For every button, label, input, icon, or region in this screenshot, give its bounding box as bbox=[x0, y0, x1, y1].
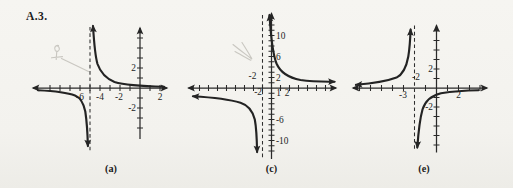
graphs-svg: -6 -4 -2 2 2 -2 (a) 10 6 2 -6 -10 -2 bbox=[0, 0, 513, 188]
panel-caption: (c) bbox=[266, 163, 277, 175]
y-tick-label: 2 bbox=[428, 64, 433, 74]
x-tick-label: -2 bbox=[412, 72, 420, 82]
panel-a: -6 -4 -2 2 2 -2 (a) bbox=[33, 26, 167, 175]
panel-caption: (e) bbox=[418, 163, 429, 175]
pencil-leader-line bbox=[62, 59, 89, 72]
x-tick-label: 2 bbox=[158, 92, 163, 102]
y-tick-label: -2 bbox=[254, 87, 262, 97]
x-tick-label: 2 bbox=[456, 90, 461, 100]
pencil-scribble bbox=[52, 45, 63, 59]
x-tick-label: 1 bbox=[276, 88, 281, 98]
pencil-checkmark bbox=[233, 43, 252, 61]
y-tick-label: 6 bbox=[276, 52, 281, 62]
curve-branch-right-of-asymptote bbox=[93, 26, 164, 87]
x-tick-label: -2 bbox=[115, 92, 123, 102]
x-tick-label: -4 bbox=[96, 92, 104, 102]
x-tick-label: -3 bbox=[399, 90, 407, 100]
y-tick-label: -2 bbox=[425, 102, 433, 112]
figure-container: A.3. -6 -4 -2 2 2 -2 (a) bbox=[0, 0, 513, 188]
x-tick-label: -6 bbox=[76, 92, 84, 102]
panel-e: -2 -3 2 2 -2 (e) bbox=[353, 26, 487, 176]
y-tick-label: -10 bbox=[276, 136, 289, 146]
curve-branch-left-of-asymptote bbox=[356, 30, 411, 85]
curve-branch-left-of-asymptote bbox=[193, 96, 257, 152]
curve-branch-right-of-asymptote bbox=[417, 90, 478, 147]
pencil-annotation bbox=[52, 45, 89, 71]
panel-caption: (a) bbox=[105, 163, 117, 175]
pencil-annotation bbox=[233, 43, 252, 61]
y-tick-label: -6 bbox=[276, 115, 284, 125]
x-tick-label: 2 bbox=[285, 88, 290, 98]
y-tick-label: -2 bbox=[128, 103, 136, 113]
y-tick-label: 2 bbox=[276, 73, 281, 83]
x-tick-label: -2 bbox=[249, 71, 257, 81]
panel-c: 10 6 2 -6 -10 -2 -2 1 2 (c) bbox=[189, 14, 337, 176]
y-tick-label: 10 bbox=[276, 31, 286, 41]
y-tick-label: 2 bbox=[131, 63, 136, 73]
